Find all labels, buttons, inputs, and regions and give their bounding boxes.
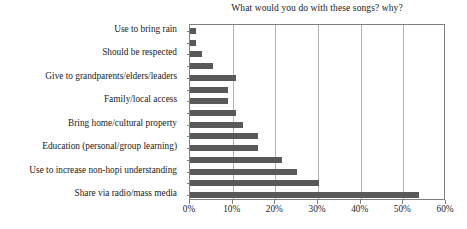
y-axis-tick: [187, 101, 190, 102]
x-axis-label: 40%: [351, 205, 368, 214]
plot-area: [189, 24, 445, 200]
x-axis-label-group: 0%10%20%30%40%50%60%: [189, 205, 445, 219]
y-axis-tick: [187, 172, 190, 173]
y-axis-tick: [187, 90, 190, 91]
x-axis-label: 10%: [223, 205, 240, 214]
y-axis-tick: [187, 183, 190, 184]
y-axis-tick: [187, 136, 190, 137]
y-axis-label-group: Use to bring rainShould be respectedGive…: [0, 24, 185, 200]
y-axis-tick: [187, 125, 190, 126]
y-axis-tick: [187, 78, 190, 79]
chart-figure: What would you do with these songs? why?…: [0, 0, 467, 229]
y-axis-tick: [187, 54, 190, 55]
y-axis-label: Give to grandparents/elders/leaders: [45, 72, 177, 81]
y-axis-label: Family/local access: [104, 96, 177, 105]
y-axis-label: Share via radio/mass media: [75, 189, 178, 198]
y-axis-tick: [187, 66, 190, 67]
x-axis-label: 20%: [266, 205, 283, 214]
y-axis-tick: [187, 31, 190, 32]
y-axis-tick-group: [190, 25, 444, 199]
y-axis-label: Use to bring rain: [114, 25, 177, 34]
x-axis-label: 60%: [436, 205, 453, 214]
y-axis-tick: [187, 148, 190, 149]
y-axis-tick: [187, 195, 190, 196]
x-axis-label: 0%: [183, 205, 195, 214]
x-axis-label: 50%: [394, 205, 411, 214]
y-axis-label: Bring home/cultural property: [68, 119, 177, 128]
chart-title: What would you do with these songs? why?: [189, 3, 445, 13]
y-axis-tick: [187, 113, 190, 114]
y-axis-tick: [187, 43, 190, 44]
x-axis-label: 30%: [308, 205, 325, 214]
y-axis-label: Should be respected: [102, 49, 177, 58]
y-axis-label: Education (personal/group learning): [42, 143, 177, 152]
y-axis-tick: [187, 160, 190, 161]
y-axis-label: Use to increase non-hopi understanding: [29, 166, 177, 175]
